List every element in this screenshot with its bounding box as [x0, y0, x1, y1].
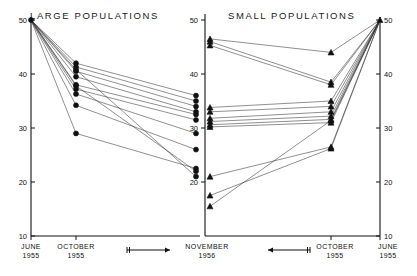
- line-small-S6: [210, 20, 380, 118]
- point-large-oct-L7: [74, 91, 79, 96]
- point-large-oct-L9: [74, 131, 79, 136]
- line-large-L3: [31, 20, 196, 106]
- xlabel-center-november: NOVEMBER 1956: [176, 243, 238, 260]
- point-large-oct-L11: [74, 67, 79, 72]
- xlabel-left-october: OCTOBER 1955: [48, 243, 104, 260]
- point-large-nov-L8: [194, 147, 199, 152]
- line-small-S12: [210, 20, 380, 206]
- xlabel-right-october-l1: OCTOBER: [307, 243, 363, 252]
- y-tick-label-right-30: 30: [384, 124, 392, 133]
- line-small-S10: [210, 20, 380, 177]
- line-small-S4: [210, 20, 380, 107]
- line-small-S1: [210, 20, 380, 52]
- line-large-L4: [31, 20, 196, 112]
- y-tick-label-left-50: 50: [19, 16, 27, 25]
- xlabel-right-october: OCTOBER 1955: [307, 243, 363, 260]
- y-tick-label-center-50: 50: [190, 16, 198, 25]
- xlabel-left-october-l1: OCTOBER: [48, 243, 104, 252]
- line-large-L6: [31, 20, 196, 120]
- xlabel-left-june-l2: 1955: [11, 252, 51, 261]
- y-tick-label-left-10: 10: [19, 232, 27, 241]
- xlabel-left-june-l1: JUNE: [11, 243, 51, 252]
- xlabel-center-november-l1: NOVEMBER: [176, 243, 238, 252]
- point-large-june: [29, 18, 34, 23]
- y-tick-label-center-40: 40: [190, 70, 198, 79]
- line-large-L10: [31, 20, 196, 171]
- point-large-nov-L10: [194, 169, 199, 174]
- point-large-nov-L1: [194, 93, 199, 98]
- line-large-L8: [31, 20, 196, 150]
- y-tick-label-right-10: 10: [384, 232, 392, 241]
- xlabel-right-june-l2: 1955: [368, 252, 408, 261]
- y-tick-label-left-30: 30: [19, 124, 27, 133]
- point-large-nov-L5: [194, 112, 199, 117]
- point-large-oct-L4: [74, 74, 79, 79]
- y-tick-label-right-50: 50: [384, 16, 392, 25]
- xlabel-left-october-l2: 1955: [48, 252, 104, 261]
- line-large-L7: [31, 20, 196, 133]
- plot-canvas: 5050404030302020101050403020: [0, 0, 417, 276]
- point-large-nov-L11: [194, 174, 199, 179]
- xlabel-right-june: JUNE 1955: [368, 243, 408, 260]
- point-large-nov-L6: [194, 117, 199, 122]
- xlabel-right-june-l1: JUNE: [368, 243, 408, 252]
- point-small-nov-S11: [207, 193, 213, 199]
- y-tick-label-left-40: 40: [19, 70, 27, 79]
- y-tick-label-right-40: 40: [384, 70, 392, 79]
- point-large-nov-L3: [194, 104, 199, 109]
- xlabel-left-june: JUNE 1955: [11, 243, 51, 260]
- y-tick-label-right-20: 20: [384, 178, 392, 187]
- point-large-oct-L8: [74, 103, 79, 108]
- point-large-oct-L10: [74, 83, 79, 88]
- arrow-right-panel: [268, 247, 310, 253]
- xlabel-center-november-l2: 1956: [176, 252, 238, 261]
- arrow-left-panel: [127, 247, 170, 253]
- point-large-nov-L2: [194, 99, 199, 104]
- y-tick-label-left-20: 20: [19, 178, 27, 187]
- point-small-oct-S5: [328, 103, 334, 109]
- xlabel-right-october-l2: 1955: [307, 252, 363, 261]
- point-large-nov-L7: [194, 131, 199, 136]
- point-small-nov-S12: [207, 203, 213, 209]
- figure-root: LARGE POPULATIONS SMALL POPULATIONS 5050…: [0, 0, 417, 276]
- point-small-oct-S4: [328, 98, 334, 104]
- line-small-S5: [210, 20, 380, 112]
- point-small-nov-S10: [207, 174, 213, 180]
